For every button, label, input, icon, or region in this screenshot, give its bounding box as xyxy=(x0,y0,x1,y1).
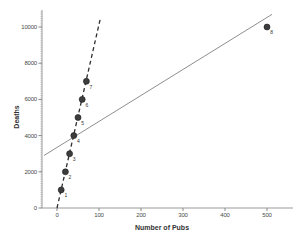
y-tick-label: 4000 xyxy=(24,133,37,139)
data-point-label: 2 xyxy=(69,174,72,180)
data-point xyxy=(62,169,68,175)
scatter-plot: 0200040006000800010000010020030040050012… xyxy=(0,0,300,242)
data-point xyxy=(83,78,89,84)
y-tick-label: 2000 xyxy=(24,169,37,175)
x-axis-title: Number of Pubs xyxy=(135,224,189,231)
x-tick-label: 400 xyxy=(220,212,230,218)
x-tick-label: 100 xyxy=(94,212,104,218)
data-point xyxy=(71,133,77,139)
data-point xyxy=(75,115,81,121)
data-point xyxy=(264,24,270,30)
data-point-label: 1 xyxy=(64,192,67,198)
y-tick-label: 8000 xyxy=(24,60,37,66)
y-axis-title: Deaths xyxy=(13,105,20,128)
x-tick-label: 200 xyxy=(136,212,146,218)
x-tick-label: 300 xyxy=(178,212,188,218)
regression-with-outlier-line xyxy=(44,14,272,155)
data-point-label: 4 xyxy=(77,138,80,144)
data-point-label: 6 xyxy=(85,102,88,108)
data-point xyxy=(58,187,64,193)
x-tick-label: 500 xyxy=(262,212,272,218)
chart-panel: 0200040006000800010000010020030040050012… xyxy=(0,0,300,242)
y-tick-label: 0 xyxy=(34,205,38,211)
y-tick-label: 6000 xyxy=(24,96,37,102)
regression-without-outlier-line xyxy=(57,17,101,208)
data-point-label: 3 xyxy=(73,156,76,162)
data-point-label: 5 xyxy=(81,120,84,126)
data-point-label: 8 xyxy=(270,29,273,35)
x-tick-label: 0 xyxy=(55,212,59,218)
data-point-label: 7 xyxy=(90,84,93,90)
data-point xyxy=(67,151,73,157)
y-tick-label: 10000 xyxy=(21,24,38,30)
data-point xyxy=(79,96,85,102)
